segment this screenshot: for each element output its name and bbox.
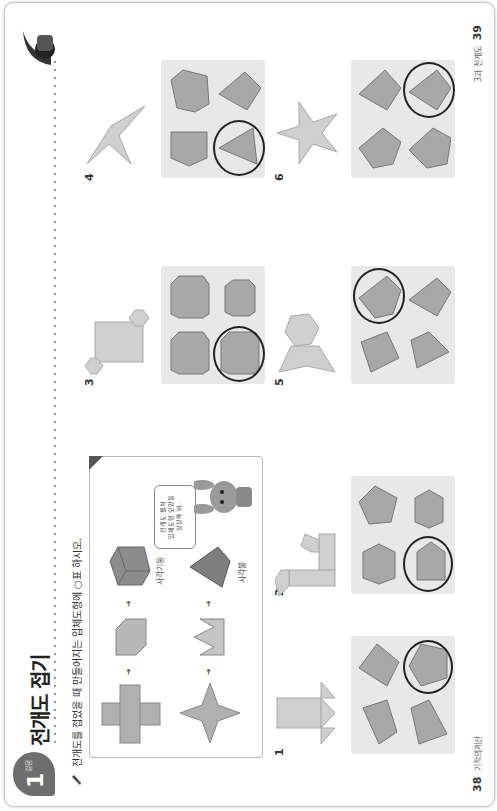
solid-label: 사각기둥	[154, 557, 165, 585]
crown-net-icon	[188, 615, 232, 659]
net-3-icon	[85, 304, 151, 376]
net-2-icon	[275, 532, 339, 606]
option-1b-icon[interactable]	[357, 640, 401, 692]
option-5a-icon[interactable]	[357, 326, 401, 378]
example-box: ➜ ➜ 사각기둥 ➜ ➜ 사각뿔 전개도 펼쳐 입체도형 모양을 상상해 봐.	[89, 456, 263, 758]
answer-circle	[403, 62, 455, 118]
problem-number-1: 1	[273, 748, 286, 756]
rectangular-prism-icon	[104, 543, 152, 591]
badge-number: 1	[23, 773, 48, 788]
pencil-icon	[71, 774, 81, 786]
folding-box-icon	[106, 615, 150, 659]
option-3b-icon[interactable]	[167, 270, 211, 322]
net-4-icon	[85, 100, 147, 166]
bubble-line: 상상해 봐.	[175, 486, 183, 548]
option-3a-icon[interactable]	[167, 326, 211, 378]
option-6b-icon[interactable]	[357, 64, 401, 116]
square-pyramid-icon	[186, 543, 234, 591]
solid-label: 사각뿔	[236, 562, 247, 583]
options-box-4	[161, 60, 265, 178]
bunny-mascot-icon	[194, 465, 256, 529]
options-box-2	[351, 476, 455, 594]
arrow-icon: ➜	[124, 600, 133, 607]
cat-mascot-icon	[17, 25, 57, 69]
options-box-6	[351, 60, 455, 178]
net-1-icon	[275, 676, 337, 746]
rotated-page: 1 걸음 전개도 접기 전개도를 접었을 때 만들어지는 입체도형에 ○표 하시…	[0, 0, 497, 811]
option-5c-icon[interactable]	[407, 326, 451, 378]
option-4a-icon[interactable]	[167, 120, 211, 172]
option-1a-icon[interactable]	[357, 696, 401, 748]
option-1c-icon[interactable]	[407, 696, 451, 748]
speech-bubble: 전개도 펼쳐 입체도형 모양을 상상해 봐.	[154, 485, 196, 549]
options-box-5	[351, 266, 455, 384]
problem-number-6: 6	[273, 173, 286, 181]
problem-number-5: 5	[273, 378, 286, 386]
bubble-line: 전개도 펼쳐	[159, 486, 167, 548]
book-title: 기적의계산	[474, 736, 483, 771]
page-number-left: 38	[471, 777, 484, 792]
page-title: 전개도 접기	[25, 655, 54, 746]
option-2a-icon[interactable]	[357, 536, 401, 588]
options-box-1	[351, 636, 455, 754]
net-6-icon	[275, 100, 341, 166]
option-3d-icon[interactable]	[217, 270, 261, 322]
problem-number-3: 3	[83, 378, 96, 386]
problem-number-4: 4	[83, 173, 96, 181]
option-5d-icon[interactable]	[407, 270, 451, 322]
page-number-right: 39	[471, 25, 484, 40]
arrow-icon: ➜	[204, 668, 213, 675]
step-badge: 1 걸음	[13, 752, 55, 796]
bubble-line: 입체도형 모양을	[167, 486, 175, 548]
option-2d-icon[interactable]	[407, 480, 451, 532]
option-6c-icon[interactable]	[407, 120, 451, 172]
footer-right: 3과 전개도39	[471, 19, 484, 82]
instruction-text: 전개도를 접었을 때 만들어지는 입체도형에 ○표 하시오.	[72, 538, 83, 767]
arrow-icon: ➜	[204, 600, 213, 607]
arrow-icon: ➜	[124, 668, 133, 675]
option-6a-icon[interactable]	[357, 120, 401, 172]
answer-circle	[353, 268, 405, 324]
workbook-spread: 1 걸음 전개도 접기 전개도를 접었을 때 만들어지는 입체도형에 ○표 하시…	[4, 2, 495, 807]
badge-sub: 걸음	[23, 760, 33, 772]
answer-circle	[213, 120, 265, 176]
instruction: 전개도를 접었을 때 만들어지는 입체도형에 ○표 하시오.	[69, 538, 84, 786]
page-fold-corner	[89, 456, 103, 470]
answer-circle	[403, 536, 453, 592]
dotted-divider	[53, 56, 57, 746]
square-cross-net-icon	[100, 683, 162, 745]
option-4b-icon[interactable]	[167, 64, 211, 116]
options-box-3	[161, 266, 265, 384]
footer-left: 38기적의계산	[471, 736, 484, 792]
net-5-icon	[275, 306, 341, 376]
option-4d-icon[interactable]	[217, 64, 261, 116]
answer-circle	[403, 640, 453, 694]
chapter-label: 3과 전개도	[474, 46, 483, 82]
option-2b-icon[interactable]	[357, 480, 401, 532]
answer-circle	[213, 326, 265, 382]
star-net-icon	[178, 681, 242, 745]
